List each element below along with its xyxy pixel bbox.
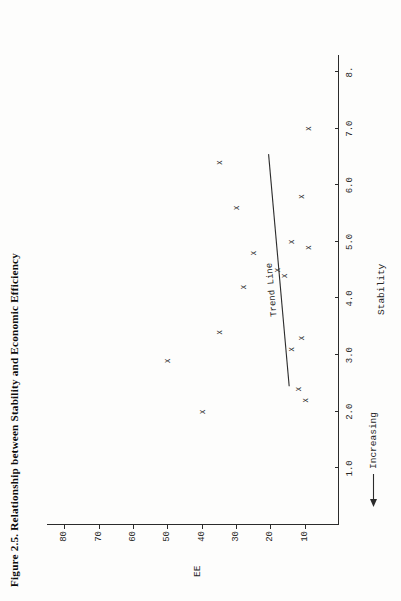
x-axis-tick bbox=[335, 241, 340, 242]
x-axis-tick-label: 5.0 bbox=[345, 234, 355, 250]
y-axis-tick-label: 20 bbox=[265, 531, 275, 547]
y-axis-tick bbox=[64, 525, 65, 530]
y-axis-tick bbox=[133, 525, 134, 530]
y-axis-tick-label: 60 bbox=[128, 531, 138, 547]
data-point: x bbox=[273, 268, 282, 272]
x-axis-tick bbox=[335, 128, 340, 129]
data-point: x bbox=[304, 127, 313, 131]
y-axis-tick bbox=[270, 525, 271, 530]
x-axis-tick-label: 6.0 bbox=[345, 177, 355, 193]
data-point: x bbox=[287, 347, 296, 351]
data-point: x bbox=[215, 160, 224, 164]
figure-page: Figure 2.5. Relationship between Stabili… bbox=[0, 0, 401, 601]
trend-line bbox=[47, 55, 339, 525]
y-axis-tick-label: 70 bbox=[94, 531, 104, 547]
x-axis-tick-label: 2.0 bbox=[345, 404, 355, 420]
data-point: x bbox=[297, 336, 306, 340]
data-point: x bbox=[287, 240, 296, 244]
data-point: x bbox=[304, 245, 313, 249]
x-axis-tick bbox=[335, 467, 340, 468]
data-point: x bbox=[215, 330, 224, 334]
x-axis-tick-label: 3.0 bbox=[345, 347, 355, 363]
data-point: x bbox=[163, 359, 172, 363]
y-axis-tick-label: 80 bbox=[59, 531, 69, 547]
y-axis-tick bbox=[99, 525, 100, 530]
data-point: x bbox=[239, 285, 248, 289]
x-axis-tick bbox=[335, 184, 340, 185]
x-axis-tick bbox=[335, 354, 340, 355]
data-point: x bbox=[232, 206, 241, 210]
x-axis-tick bbox=[335, 411, 340, 412]
left-arrow-icon bbox=[368, 473, 379, 507]
data-point: x bbox=[294, 387, 303, 391]
y-axis-tick-label: 30 bbox=[231, 531, 241, 547]
data-point: x bbox=[197, 410, 206, 414]
x-axis-title: Stability bbox=[376, 264, 387, 315]
x-axis-tick-label: 7.0 bbox=[345, 121, 355, 137]
y-axis-tick bbox=[202, 525, 203, 530]
y-axis-tick-label: 50 bbox=[162, 531, 172, 547]
x-axis-tick-label: 8. bbox=[345, 67, 355, 78]
x-axis-tick bbox=[335, 298, 340, 299]
data-point: x bbox=[249, 251, 258, 255]
data-point: x bbox=[300, 398, 309, 402]
x-axis-tick-label: 4.0 bbox=[345, 290, 355, 306]
data-point: x bbox=[280, 274, 289, 278]
y-axis-tick bbox=[236, 525, 237, 530]
increasing-label: Increasing bbox=[368, 412, 379, 469]
page-title: Figure 2.5. Relationship between Stabili… bbox=[8, 253, 20, 587]
scatter-plot: Trend Line 1.02.03.04.05.06.07.08.102030… bbox=[47, 55, 339, 525]
y-axis-tick-label: 10 bbox=[300, 531, 310, 547]
data-point: x bbox=[297, 194, 306, 198]
increasing-annotation: Increasing bbox=[368, 412, 379, 507]
y-axis-tick-label: 40 bbox=[197, 531, 207, 547]
y-axis-title: EE bbox=[192, 566, 203, 577]
y-axis-tick bbox=[305, 525, 306, 530]
x-axis-tick-label: 1.0 bbox=[345, 460, 355, 476]
x-axis-tick bbox=[335, 71, 340, 72]
y-axis-tick bbox=[167, 525, 168, 530]
